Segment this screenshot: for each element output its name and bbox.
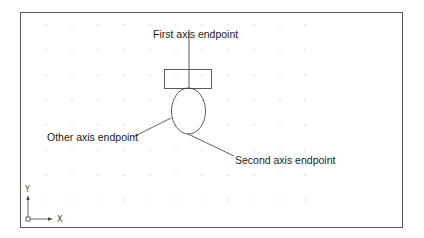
grid-dot	[72, 50, 73, 51]
grid-dot	[280, 125, 281, 126]
grid-dot	[176, 175, 177, 176]
grid-dot	[202, 200, 203, 201]
grid-dot	[124, 50, 125, 51]
grid-dot	[202, 50, 203, 51]
grid-dot	[98, 200, 99, 201]
grid-dot	[202, 25, 203, 26]
grid-dot	[228, 100, 229, 101]
grid-dot	[72, 25, 73, 26]
grid-dot	[150, 50, 151, 51]
x-arrowhead-icon	[48, 217, 53, 220]
grid-dot	[98, 100, 99, 101]
second-axis-label: Second axis endpoint	[235, 154, 335, 166]
grid-dot	[305, 25, 306, 26]
grid-dot	[46, 150, 47, 151]
grid-dot	[176, 25, 177, 26]
grid-dot	[176, 100, 177, 101]
grid-dot	[228, 75, 229, 76]
grid-dot	[150, 100, 151, 101]
grid-dot	[46, 200, 47, 201]
grid-dot	[254, 100, 255, 101]
grid-dot	[202, 150, 203, 151]
grid-dot	[46, 100, 47, 101]
grid-dot	[150, 175, 151, 176]
grid-dot	[46, 125, 47, 126]
first-axis-label: First axis endpoint	[153, 28, 238, 40]
grid-dot	[305, 175, 306, 176]
grid-dot	[98, 175, 99, 176]
drawing-border	[21, 13, 403, 228]
grid-dot	[228, 50, 229, 51]
second-axis-leader	[188, 134, 234, 156]
y-axis-label: Y	[24, 185, 30, 194]
other-axis-leader	[133, 118, 171, 137]
grid-dot	[176, 50, 177, 51]
grid-dot	[280, 75, 281, 76]
grid-dot	[228, 175, 229, 176]
grid-dot	[98, 75, 99, 76]
other-axis-label: Other axis endpoint	[47, 131, 138, 143]
grid-dot	[228, 25, 229, 26]
grid-dot	[305, 75, 306, 76]
grid-dot	[202, 175, 203, 176]
grid-dot	[280, 50, 281, 51]
grid-dot	[305, 50, 306, 51]
grid-dot	[254, 125, 255, 126]
grid-dot	[254, 75, 255, 76]
grid-dot	[254, 50, 255, 51]
grid-dot	[228, 150, 229, 151]
grid-dot	[72, 150, 73, 151]
ellipse-shape	[172, 88, 206, 134]
grid-dot	[254, 200, 255, 201]
rectangle-shape	[165, 70, 212, 89]
grid-dot	[305, 100, 306, 101]
grid-dot	[176, 200, 177, 201]
grid-dot	[305, 125, 306, 126]
grid-dot	[228, 125, 229, 126]
grid-dot	[280, 25, 281, 26]
grid-dot	[72, 125, 73, 126]
y-arrowhead-icon	[26, 195, 29, 200]
grid-dot	[72, 200, 73, 201]
grid-dot	[280, 100, 281, 101]
grid-dot	[176, 75, 177, 76]
x-axis-label: X	[57, 215, 63, 224]
grid-dot	[124, 200, 125, 201]
ucs-origin-icon	[26, 217, 30, 221]
grid-dot	[280, 175, 281, 176]
grid-dot	[46, 50, 47, 51]
grid-dot	[254, 25, 255, 26]
grid-dot	[280, 200, 281, 201]
ucs-icon: Y X	[24, 185, 63, 224]
grid-dot	[124, 25, 125, 26]
grid-dot	[124, 150, 125, 151]
drawing-canvas: First axis endpoint Other axis endpoint …	[0, 0, 424, 238]
grid-dot	[176, 150, 177, 151]
grid-dot	[254, 150, 255, 151]
grid-dot	[150, 150, 151, 151]
grid-dot	[124, 75, 125, 76]
grid-dot	[150, 125, 151, 126]
grid-dot	[46, 175, 47, 176]
grid-dot	[150, 75, 151, 76]
grid-dot	[124, 175, 125, 176]
grid-dot	[202, 100, 203, 101]
grid-dot	[228, 200, 229, 201]
grid-dot	[46, 75, 47, 76]
grid-dot	[150, 25, 151, 26]
grid-dot	[124, 125, 125, 126]
grid-dot	[98, 150, 99, 151]
grid-dot	[202, 75, 203, 76]
grid-dot	[98, 125, 99, 126]
grid-dot	[150, 200, 151, 201]
grid-dot	[305, 150, 306, 151]
grid-dots	[46, 25, 306, 201]
grid-dot	[305, 200, 306, 201]
grid-dot	[72, 175, 73, 176]
grid-dot	[280, 150, 281, 151]
grid-dot	[254, 175, 255, 176]
grid-dot	[98, 50, 99, 51]
grid-dot	[98, 25, 99, 26]
grid-dot	[72, 100, 73, 101]
grid-dot	[72, 75, 73, 76]
